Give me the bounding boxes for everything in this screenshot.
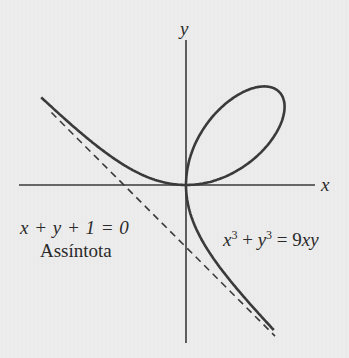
- diagram-canvas: [0, 0, 349, 358]
- curve-eq-rest: = 9: [272, 229, 302, 250]
- folium-curve: [41, 86, 284, 330]
- curve-eq-y: y: [258, 229, 266, 250]
- y-axis-label: y: [180, 19, 188, 38]
- asymptote-equation: x + y + 1 = 0: [20, 218, 129, 237]
- curve-eq-xy: xy: [302, 229, 319, 250]
- folium-diagram: x y x + y + 1 = 0 Assíntota x3 + y3 = 9x…: [0, 0, 349, 358]
- asymptote-label: Assíntota: [40, 241, 112, 260]
- curve-equation: x3 + y3 = 9xy: [223, 229, 319, 249]
- curve-eq-plus: +: [237, 229, 257, 250]
- x-axis-label: x: [321, 175, 329, 194]
